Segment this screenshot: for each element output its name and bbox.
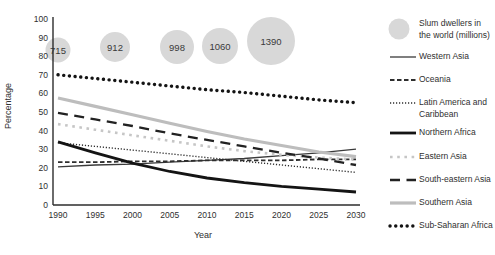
legend-label: Western Asia <box>419 51 495 63</box>
bubble-legend-icon <box>388 18 418 40</box>
legend-label: Latin America and Caribbean <box>419 97 495 120</box>
x-tick-label: 2000 <box>123 210 142 220</box>
y-tick-label: 70 <box>39 70 49 80</box>
y-axis-title: Percentage <box>3 83 13 129</box>
legend-label: Oceania <box>419 74 495 86</box>
y-tick-label: 80 <box>39 51 49 61</box>
legend-item-sub-saharan-africa: Sub-Saharan Africa <box>388 220 495 232</box>
series-line-sub-saharan-africa <box>58 75 356 103</box>
y-tick-label: 0 <box>43 200 48 210</box>
line-style-icon <box>388 174 418 186</box>
series-line-oceania <box>58 159 356 162</box>
line-style-icon <box>388 197 418 209</box>
legend-label: Southern Asia <box>419 197 495 209</box>
y-tick-label: 60 <box>39 88 49 98</box>
y-tick-label: 20 <box>39 163 49 173</box>
x-tick-label: 2015 <box>235 210 254 220</box>
bubble-label: 1060 <box>209 41 230 52</box>
x-tick-label: 1995 <box>86 210 105 220</box>
legend-label: Northern Africa <box>419 127 495 139</box>
x-tick-label: 2005 <box>160 210 179 220</box>
bubble-label: 998 <box>169 42 185 53</box>
line-style-icon <box>388 151 418 163</box>
legend-item-south-eastern-asia: South-eastern Asia <box>388 174 495 186</box>
series-line-south-eastern-asia <box>58 113 356 165</box>
y-tick-label: 40 <box>39 126 49 136</box>
line-style-icon <box>388 51 418 63</box>
y-tick-label: 90 <box>39 33 49 43</box>
y-tick-label: 10 <box>39 181 49 191</box>
line-style-icon <box>388 127 418 139</box>
y-tick-label: 100 <box>34 14 48 24</box>
line-style-icon <box>388 74 418 86</box>
line-style-icon <box>388 220 418 232</box>
series-line-southern-asia <box>58 98 356 157</box>
slum-dwellers-chart: 7159129981060139001020304050607080901001… <box>0 0 495 255</box>
bubble-label: 1390 <box>260 36 281 47</box>
legend-label: Eastern Asia <box>419 151 495 163</box>
y-tick-label: 50 <box>39 107 49 117</box>
legend-item-slum-dwellers-in: Slum dwellers in the world (millions) <box>388 18 495 41</box>
legend-item-northern-africa: Northern Africa <box>388 127 495 139</box>
x-tick-label: 2020 <box>272 210 291 220</box>
x-axis-title: Year <box>180 230 226 240</box>
legend-label: Slum dwellers in the world (millions) <box>419 18 495 41</box>
legend-item-latin-america-and: Latin America and Caribbean <box>388 97 495 120</box>
line-style-icon <box>388 97 418 109</box>
x-tick-label: 1990 <box>49 210 68 220</box>
legend-circle-swatch <box>389 19 410 40</box>
legend-item-oceania: Oceania <box>388 74 495 86</box>
legend-item-western-asia: Western Asia <box>388 51 495 63</box>
bubble-label: 912 <box>107 42 123 53</box>
legend-item-southern-asia: Southern Asia <box>388 197 495 209</box>
x-tick-label: 2010 <box>198 210 217 220</box>
legend-item-eastern-asia: Eastern Asia <box>388 151 495 163</box>
legend-label: Sub-Saharan Africa <box>419 220 495 232</box>
legend-label: South-eastern Asia <box>419 174 495 186</box>
y-tick-label: 30 <box>39 144 49 154</box>
x-tick-label: 2025 <box>309 210 328 220</box>
x-tick-label: 2030 <box>347 210 366 220</box>
chart-legend: Slum dwellers in the world (millions)Wes… <box>388 0 494 255</box>
